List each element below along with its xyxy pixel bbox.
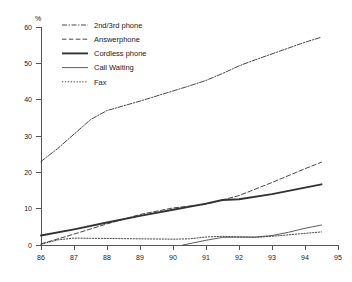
legend-label-2: Cordless phone <box>94 49 147 58</box>
x-tick-label: 90 <box>169 254 177 261</box>
y-tick-label: 60 <box>24 24 32 31</box>
x-tick-label: 93 <box>268 254 276 261</box>
y-tick-label: 0 <box>28 242 32 249</box>
y-axis-unit-label: % <box>35 15 41 22</box>
legend-label-4: Fax <box>94 78 107 87</box>
x-tick-label: 87 <box>70 254 78 261</box>
line-chart: 0102030405060 % 86878889909192939495 2nd… <box>0 0 352 282</box>
series-line-0 <box>41 37 322 161</box>
x-tick-label: 94 <box>301 254 309 261</box>
x-tick-label: 88 <box>103 254 111 261</box>
x-tick-label: 86 <box>37 254 45 261</box>
y-tick-label: 30 <box>24 133 32 140</box>
y-tick-label: 40 <box>24 96 32 103</box>
x-tick-label: 95 <box>334 254 342 261</box>
x-tick-label: 91 <box>202 254 210 261</box>
legend-label-3: Call Waiting <box>94 63 134 72</box>
x-tick-label: 89 <box>136 254 144 261</box>
y-tick-label: 10 <box>24 205 32 212</box>
y-tick-label: 20 <box>24 169 32 176</box>
series-group <box>41 37 322 245</box>
series-line-1 <box>41 162 322 244</box>
legend-label-1: Answerphone <box>94 35 140 44</box>
x-tick-label: 92 <box>235 254 243 261</box>
series-line-2 <box>41 184 322 235</box>
x-axis-ticks: 86878889909192939495 <box>37 245 342 261</box>
x-axis: 86878889909192939495 <box>37 245 342 261</box>
chart-legend: 2nd/3rd phoneAnswerphoneCordless phoneCa… <box>62 21 147 87</box>
y-tick-label: 50 <box>24 60 32 67</box>
chart-canvas: 0102030405060 % 86878889909192939495 2nd… <box>0 0 352 282</box>
y-axis: 0102030405060 % <box>24 15 41 249</box>
series-line-3 <box>183 225 322 245</box>
y-axis-ticks: 0102030405060 <box>24 24 41 249</box>
legend-label-0: 2nd/3rd phone <box>94 21 142 30</box>
